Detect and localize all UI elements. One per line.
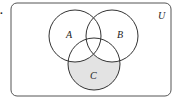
set-b-label: B bbox=[117, 29, 123, 40]
set-a-label: A bbox=[65, 29, 73, 40]
venn-diagram: A B C U bbox=[0, 0, 173, 99]
set-c-label: C bbox=[90, 70, 97, 81]
universe-label: U bbox=[158, 10, 166, 21]
